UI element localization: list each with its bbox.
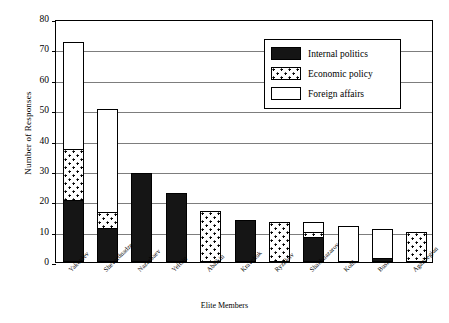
x-axis-title: Elite Members: [0, 301, 449, 310]
bar-group: [131, 19, 152, 262]
y-axis-tick-label: 70: [23, 45, 49, 55]
y-axis-tick-label: 80: [23, 15, 49, 25]
y-axis-tick-label: 50: [23, 106, 49, 116]
y-axis-tick-label: 40: [23, 137, 49, 147]
bar-segment: [63, 149, 84, 202]
white-swatch: [271, 87, 301, 100]
y-axis-tick-label: 60: [23, 76, 49, 86]
y-axis-tick-label: 10: [23, 228, 49, 238]
bar-group: [235, 19, 256, 262]
bar-segment: [166, 193, 187, 262]
y-axis-tick-label: 30: [23, 167, 49, 177]
bar-segment: [303, 222, 324, 234]
bar-group: [97, 19, 118, 262]
legend-item: Foreign affairs: [271, 85, 394, 102]
dotted-swatch: [271, 67, 301, 80]
bar-segment: [97, 109, 118, 213]
bar-segment: [131, 173, 152, 262]
bar-group: [63, 19, 84, 262]
legend-item: Economic policy: [271, 65, 394, 82]
bar-segment: [338, 226, 359, 262]
bar-group: [166, 19, 187, 262]
legend-label: Foreign affairs: [308, 89, 364, 99]
bar-segment: [372, 229, 393, 259]
y-axis-tick-label: 0: [23, 258, 49, 268]
y-axis-tick-mark: [52, 264, 56, 265]
solid-black-swatch: [271, 47, 301, 60]
chart-legend: Internal politicsEconomic policyForeign …: [264, 39, 401, 109]
bar-group: [406, 19, 427, 262]
bar-group: [200, 19, 221, 262]
legend-item: Internal politics: [271, 45, 394, 62]
bar-segment: [63, 42, 84, 149]
bar-segment: [97, 212, 118, 228]
legend-label: Internal politics: [308, 49, 368, 59]
legend-label: Economic policy: [308, 69, 373, 79]
y-axis-tick-label: 20: [23, 197, 49, 207]
stacked-bar-chart: Number of Responses 01020304050607080 Ya…: [0, 0, 449, 323]
